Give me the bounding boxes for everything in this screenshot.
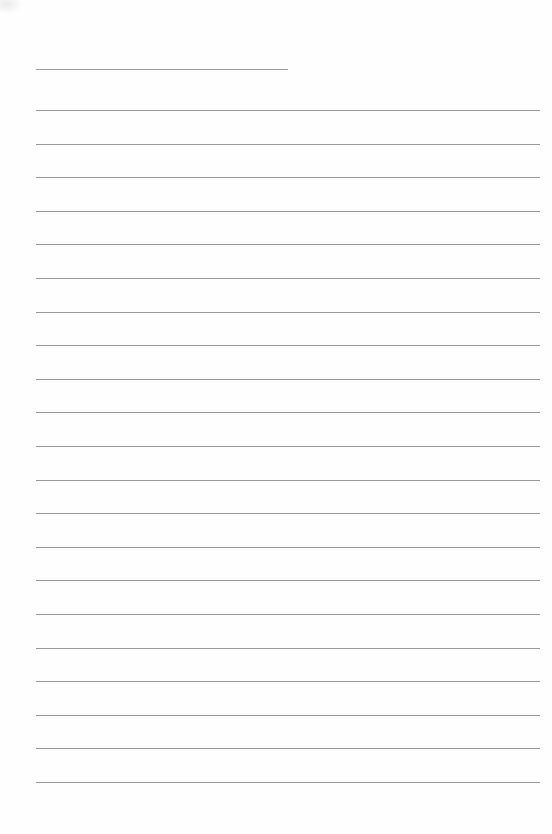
ruled-line xyxy=(36,312,540,313)
ruled-line xyxy=(36,345,540,346)
ruled-line xyxy=(36,480,540,481)
ruled-line xyxy=(36,614,540,615)
ruled-line xyxy=(36,379,540,380)
ruled-line xyxy=(36,144,540,145)
ruled-line xyxy=(36,748,540,749)
ruled-line xyxy=(36,446,540,447)
ruled-line xyxy=(36,648,540,649)
ruled-line xyxy=(36,681,540,682)
ruled-line xyxy=(36,580,540,581)
ruled-line xyxy=(36,782,540,783)
ruled-line xyxy=(36,412,540,413)
ruled-line xyxy=(36,110,540,111)
ruled-line xyxy=(36,513,540,514)
ruled-line xyxy=(36,547,540,548)
ruled-line xyxy=(36,211,540,212)
title-line xyxy=(36,69,288,70)
ruled-line xyxy=(36,244,540,245)
ruled-line xyxy=(36,278,540,279)
ruled-line xyxy=(36,715,540,716)
ruled-line xyxy=(36,177,540,178)
lined-paper-page xyxy=(0,0,552,834)
corner-smudge xyxy=(0,0,22,14)
